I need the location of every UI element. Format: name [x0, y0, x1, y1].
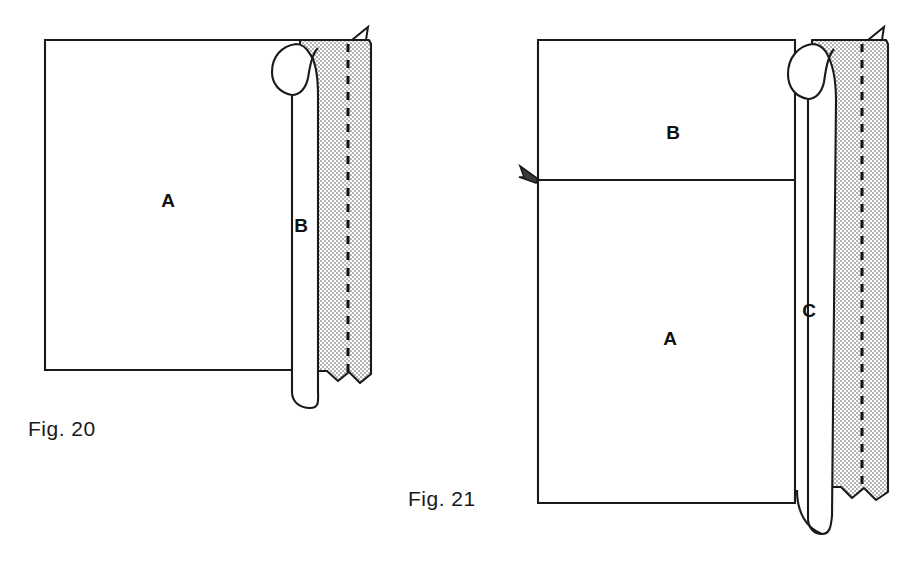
fig21-panel-outline: [538, 40, 795, 503]
fig21-label-a: A: [663, 328, 677, 349]
fig20-label-a: A: [161, 190, 175, 211]
fig20-label-b: B: [294, 215, 308, 236]
fig20-caption: Fig. 20: [28, 417, 96, 440]
fig21-label-c: C: [802, 300, 816, 321]
fig21-label-b: B: [666, 122, 680, 143]
fig21-caption: Fig. 21: [408, 487, 476, 510]
patent-drawing-sheet: A B Fig. 20 B A C Fig. 21: [0, 0, 919, 587]
figure-sheet: A B Fig. 20 B A C Fig. 21: [0, 0, 919, 587]
